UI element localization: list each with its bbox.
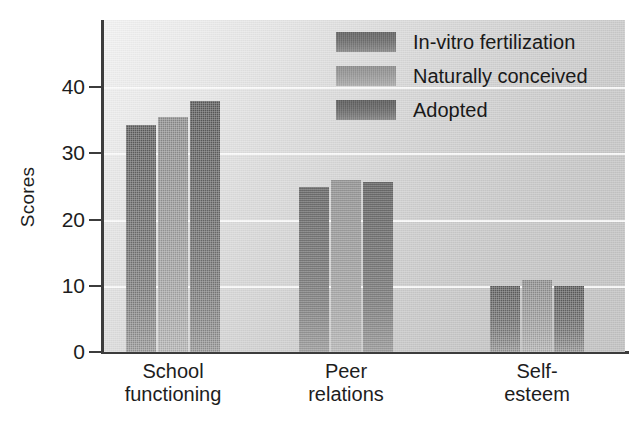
bar-texture bbox=[363, 182, 393, 352]
bar-texture bbox=[490, 286, 520, 352]
legend-item-3[interactable]: Adopted bbox=[336, 95, 626, 124]
y-tick-label: 0 bbox=[41, 341, 85, 362]
legend-swatch-texture bbox=[336, 100, 396, 120]
bar-2-2 bbox=[331, 180, 361, 352]
chart-legend: In-vitro fertilizationNaturally conceive… bbox=[336, 27, 626, 129]
bar-texture bbox=[190, 101, 220, 352]
bar-texture bbox=[554, 286, 584, 352]
x-category-label-line: Self- bbox=[427, 360, 643, 383]
legend-item-2[interactable]: Naturally conceived bbox=[336, 61, 626, 90]
bar-3-1 bbox=[490, 286, 520, 352]
bar-2-3 bbox=[363, 182, 393, 352]
bar-3-2 bbox=[522, 280, 552, 352]
legend-label-3: Adopted bbox=[413, 100, 488, 120]
bar-1-2 bbox=[158, 117, 188, 352]
y-tick-label: 20 bbox=[41, 209, 85, 230]
bar-texture bbox=[126, 125, 156, 352]
bar-texture bbox=[522, 280, 552, 352]
bar-1-3 bbox=[190, 101, 220, 352]
legend-swatch-3 bbox=[336, 100, 396, 120]
y-axis-title: Scores bbox=[17, 152, 39, 242]
bar-texture bbox=[158, 117, 188, 352]
x-category-label-line: esteem bbox=[427, 383, 643, 406]
legend-item-1[interactable]: In-vitro fertilization bbox=[336, 27, 626, 56]
x-category-label-2: Peerrelations bbox=[236, 360, 456, 407]
legend-swatch-2 bbox=[336, 66, 396, 86]
y-tick-label: 30 bbox=[41, 142, 85, 163]
y-tick-label: 40 bbox=[41, 76, 85, 97]
legend-label-1: In-vitro fertilization bbox=[413, 32, 575, 52]
x-category-label-3: Self-esteem bbox=[427, 360, 643, 407]
bar-texture bbox=[299, 187, 329, 352]
legend-swatch-texture bbox=[336, 66, 396, 86]
bar-2-1 bbox=[299, 187, 329, 352]
y-tick-label: 10 bbox=[41, 275, 85, 296]
bar-1-1 bbox=[126, 125, 156, 352]
legend-label-2: Naturally conceived bbox=[413, 66, 588, 86]
x-category-label-line: relations bbox=[236, 383, 456, 406]
legend-swatch-1 bbox=[336, 32, 396, 52]
bar-chart: Scores 010203040 SchoolfunctioningPeerre… bbox=[0, 0, 643, 434]
bar-3-3 bbox=[554, 286, 584, 352]
legend-swatch-texture bbox=[336, 32, 396, 52]
x-category-label-line: Peer bbox=[236, 360, 456, 383]
bar-texture bbox=[331, 180, 361, 352]
